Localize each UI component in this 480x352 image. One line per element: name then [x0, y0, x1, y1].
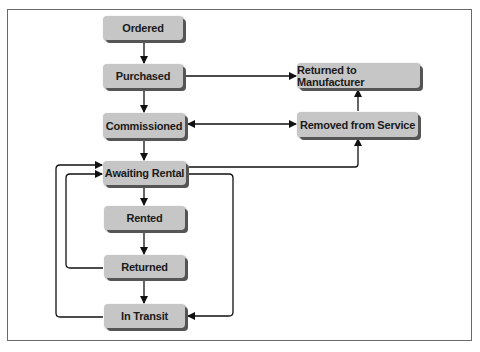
edge-awaiting-removed: [189, 139, 358, 167]
node-in-transit: In Transit: [104, 304, 185, 328]
node-commissioned: Commissioned: [103, 113, 185, 138]
node-awaiting-rental: Awaiting Rental: [103, 161, 186, 185]
edge-awaiting-intransit: [188, 174, 233, 316]
edge-intransit-awaiting: [56, 165, 103, 317]
node-purchased: Purchased: [103, 64, 183, 88]
node-returned-to-manufacturer: Returned to Manufacturer: [297, 63, 420, 88]
node-returned: Returned: [104, 255, 185, 278]
edge-returned-awaiting: [66, 174, 103, 268]
node-ordered: Ordered: [103, 16, 183, 40]
node-rented: Rented: [104, 206, 185, 230]
edges-layer: [0, 0, 480, 352]
node-removed-from-service: Removed from Service: [297, 112, 418, 137]
